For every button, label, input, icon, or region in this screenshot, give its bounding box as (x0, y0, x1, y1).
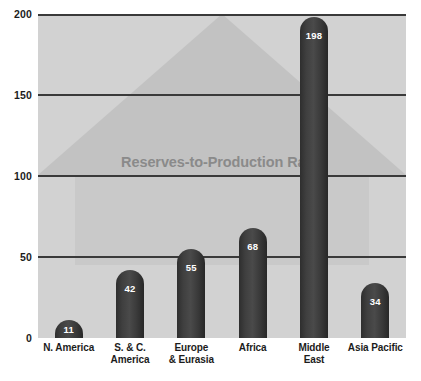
x-tick-label: S. & C.America (99, 342, 160, 365)
x-tick-label-line: America (99, 354, 160, 366)
reserves-to-production-ratio-chart: 050100150200 Reserves-to-Production Rati… (0, 0, 421, 381)
bar-value-label: 55 (177, 263, 205, 273)
bar: 55 (177, 249, 205, 338)
x-tick-label-line: East (283, 354, 344, 366)
bar-value-label: 198 (300, 31, 328, 41)
y-tick-label: 50 (20, 252, 32, 263)
bar-value-label: 68 (239, 242, 267, 252)
bar-value-label: 11 (55, 325, 83, 335)
bar: 198 (300, 17, 328, 338)
y-tick-label: 150 (14, 90, 32, 101)
bar: 42 (116, 270, 144, 338)
x-tick-label: Europe& Eurasia (161, 342, 222, 365)
y-axis: 050100150200 (0, 0, 36, 345)
bars: 1142556819834 (38, 14, 406, 338)
x-tick-label: N. America (38, 342, 99, 354)
y-tick-label: 200 (14, 9, 32, 20)
plot-area: Reserves-to-Production Ratio 11425568198… (38, 14, 406, 338)
x-tick-label-line: N. America (38, 342, 99, 354)
bar: 68 (239, 228, 267, 338)
y-tick-label: 100 (14, 171, 32, 182)
x-tick-label-line: S. & C. (99, 342, 160, 354)
x-tick-label-line: Europe (161, 342, 222, 354)
bar: 11 (55, 320, 83, 338)
x-tick-label-line: Africa (222, 342, 283, 354)
y-tick-label: 0 (26, 333, 32, 344)
bar-value-label: 42 (116, 284, 144, 294)
x-axis: N. AmericaS. & C.AmericaEurope& EurasiaA… (38, 342, 406, 381)
x-tick-label-line: Middle (283, 342, 344, 354)
x-tick-label-line: Asia Pacific (345, 342, 406, 354)
x-tick-label: Africa (222, 342, 283, 354)
x-tick-label: Asia Pacific (345, 342, 406, 354)
bar-value-label: 34 (361, 297, 389, 307)
x-tick-label: MiddleEast (283, 342, 344, 365)
bar: 34 (361, 283, 389, 338)
x-tick-label-line: & Eurasia (161, 354, 222, 366)
